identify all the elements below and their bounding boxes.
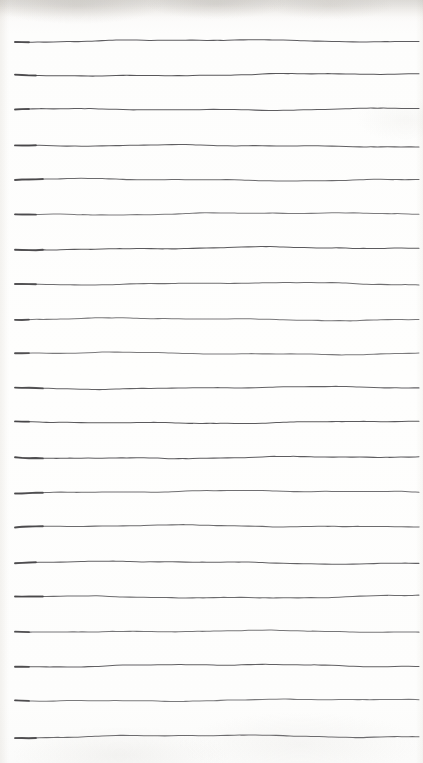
rule-line [15, 73, 419, 76]
rule-line-pen-start [15, 75, 36, 76]
rule-line [15, 595, 419, 598]
rule-line [15, 213, 419, 215]
scanned-page [0, 0, 423, 763]
rule-line [15, 490, 419, 493]
rule-line [15, 630, 419, 632]
ruling-lines-layer [0, 0, 423, 763]
rule-line-pen-start [15, 493, 43, 494]
rule-line [15, 282, 419, 285]
rule-line-pen-start [15, 250, 43, 251]
rule-line [15, 352, 419, 355]
rule-line [15, 108, 419, 110]
rule-line [15, 144, 419, 147]
rule-line [15, 318, 419, 321]
rule-line-pen-start [15, 562, 36, 563]
rule-line [15, 699, 419, 702]
rule-line-pen-start [15, 388, 43, 389]
rule-line [15, 421, 419, 423]
rule-line [15, 247, 419, 251]
rule-line [15, 40, 419, 43]
rule-line [15, 456, 419, 458]
rule-line-pen-start [15, 526, 43, 527]
rule-line-pen-start [15, 179, 43, 180]
rule-line [15, 525, 419, 528]
rule-line [15, 386, 419, 389]
rule-line [15, 178, 419, 181]
rule-line [15, 735, 419, 738]
rule-line-pen-start [15, 457, 43, 458]
rule-line [15, 561, 419, 564]
rule-line [15, 664, 419, 667]
ruling-lines-svg [0, 0, 423, 763]
